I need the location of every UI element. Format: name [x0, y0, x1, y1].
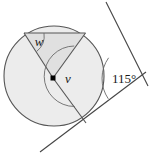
angle-label-w: w — [35, 34, 44, 49]
geometry-canvas: w v 115° — [0, 0, 151, 156]
circle-center-marker — [51, 76, 56, 81]
angle-label-v: v — [65, 71, 71, 86]
geometry-figure: w v 115° — [0, 0, 151, 156]
angle-label-apex: 115° — [112, 71, 136, 86]
